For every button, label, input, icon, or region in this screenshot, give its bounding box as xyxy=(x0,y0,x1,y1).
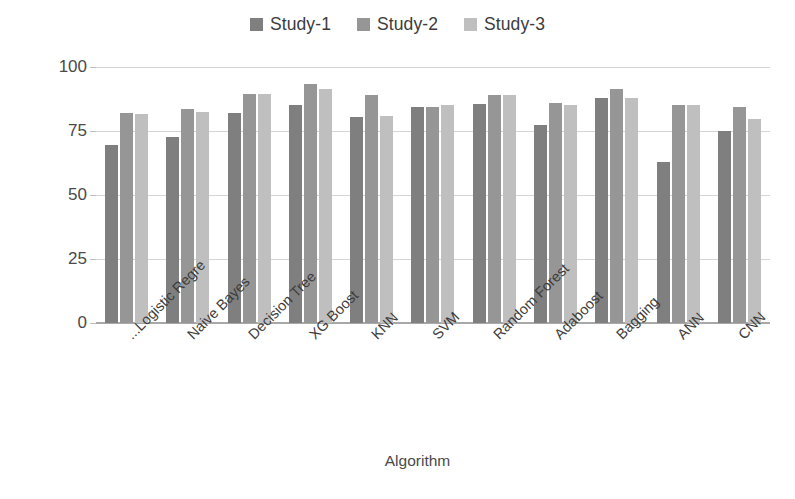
bar-study-3[interactable] xyxy=(258,94,271,323)
x-tick-cell: Naive Bayes xyxy=(157,323,218,443)
bar-study-1[interactable] xyxy=(473,104,486,323)
bar-groups xyxy=(96,67,770,323)
bar-group xyxy=(341,67,402,323)
bar-study-3[interactable] xyxy=(380,116,393,323)
bar-group xyxy=(96,67,157,323)
legend-label: Study-3 xyxy=(484,14,545,35)
plot-area: 0255075100 xyxy=(96,67,770,323)
legend-swatch-icon xyxy=(250,18,263,31)
bar-study-1[interactable] xyxy=(411,107,424,323)
y-axis-tick-label: 50 xyxy=(68,185,87,205)
legend-swatch-icon xyxy=(464,18,477,31)
bar-study-3[interactable] xyxy=(196,112,209,323)
bar-study-3[interactable] xyxy=(625,98,638,323)
legend-item-1[interactable]: Study-1 xyxy=(250,14,331,35)
legend-item-2[interactable]: Study-2 xyxy=(357,14,438,35)
bar-study-2[interactable] xyxy=(488,95,501,323)
bar-study-2[interactable] xyxy=(365,95,378,323)
x-tick-cell: Logistic Regre... xyxy=(96,323,157,443)
x-tick-cell: XG Boost xyxy=(280,323,341,443)
y-axis-tick-label: 25 xyxy=(68,249,87,269)
x-tick-cell: Bagging xyxy=(586,323,647,443)
bar-study-1[interactable] xyxy=(595,98,608,323)
bar-group xyxy=(464,67,525,323)
x-tick-cell: Decision Tree xyxy=(219,323,280,443)
x-tick-cell: KNN xyxy=(341,323,402,443)
bar-study-3[interactable] xyxy=(748,119,761,323)
legend-label: Study-2 xyxy=(377,14,438,35)
x-tick-cell: ANN xyxy=(647,323,708,443)
y-axis-tick-label: 0 xyxy=(78,313,87,333)
x-tick-cell: CNN xyxy=(709,323,770,443)
legend-item-3[interactable]: Study-3 xyxy=(464,14,545,35)
bar-study-3[interactable] xyxy=(441,105,454,323)
bar-group xyxy=(709,67,770,323)
bar-study-2[interactable] xyxy=(610,89,623,323)
bar-study-2[interactable] xyxy=(426,107,439,323)
bar-study-3[interactable] xyxy=(135,114,148,323)
x-tick-cell: Adaboost xyxy=(525,323,586,443)
x-tick-cell: SVM xyxy=(402,323,463,443)
bar-study-3[interactable] xyxy=(687,105,700,323)
bar-group xyxy=(647,67,708,323)
bar-study-2[interactable] xyxy=(672,105,685,323)
y-axis-tick-label: 100 xyxy=(59,57,87,77)
x-axis-tick-labels: Logistic Regre...Naive BayesDecision Tre… xyxy=(96,323,770,443)
bar-study-2[interactable] xyxy=(733,107,746,323)
y-axis-tick-label: 75 xyxy=(68,121,87,141)
bar-study-1[interactable] xyxy=(657,162,670,323)
x-axis-title: Algorithm xyxy=(60,452,775,470)
accuracy-bar-chart: Study-1Study-2Study-3 Accuracy (%) 02550… xyxy=(0,0,795,499)
chart-legend: Study-1Study-2Study-3 xyxy=(0,14,795,35)
bar-study-1[interactable] xyxy=(105,145,118,323)
legend-label: Study-1 xyxy=(270,14,331,35)
x-tick-cell: Random Forest xyxy=(464,323,525,443)
bar-group xyxy=(402,67,463,323)
bar-study-3[interactable] xyxy=(503,95,516,323)
bar-group xyxy=(586,67,647,323)
bar-study-3[interactable] xyxy=(564,105,577,323)
bar-study-2[interactable] xyxy=(120,113,133,323)
bar-study-1[interactable] xyxy=(718,131,731,323)
legend-swatch-icon xyxy=(357,18,370,31)
bar-study-3[interactable] xyxy=(319,89,332,323)
